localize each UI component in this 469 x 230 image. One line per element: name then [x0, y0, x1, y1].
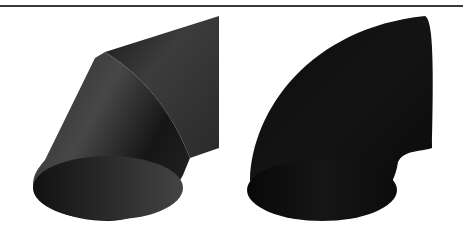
mitered-elbow-end-cap	[33, 156, 183, 220]
smooth-elbow-end-cap	[247, 159, 397, 221]
mitered-elbow-figure	[33, 16, 219, 221]
smooth-elbow-figure	[247, 16, 433, 221]
elbows-illustration	[0, 0, 469, 230]
